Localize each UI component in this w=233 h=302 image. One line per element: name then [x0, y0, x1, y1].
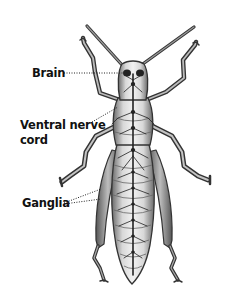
antennae: [87, 26, 194, 66]
grasshopper-nervous-system-diagram: Brain Ventral nerve cord Ganglia: [0, 0, 233, 302]
label-ganglia: Ganglia: [22, 196, 70, 210]
label-ventral-nerve-cord-line2: cord: [20, 133, 48, 147]
right-eye: [136, 70, 144, 77]
label-ventral-nerve-cord-line1: Ventral nerve: [20, 118, 106, 132]
label-brain: Brain: [32, 66, 65, 80]
grasshopper-illustration: [0, 0, 233, 302]
